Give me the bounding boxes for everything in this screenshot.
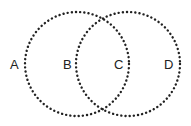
label-a: A — [10, 57, 19, 72]
label-d: D — [164, 57, 173, 72]
label-b: B — [63, 57, 72, 72]
label-c: C — [114, 57, 123, 72]
venn-diagram: A B C D — [0, 0, 191, 126]
